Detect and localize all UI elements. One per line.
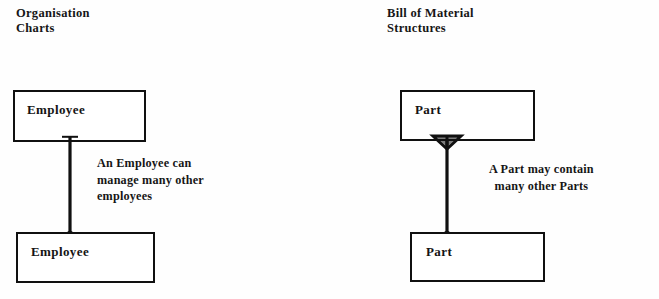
relationship-connector-left <box>46 136 94 240</box>
entity-label-part-bottom: Part <box>426 244 452 260</box>
entity-label-employee-top: Employee <box>27 102 85 118</box>
right-panel-caption: A Part may contain many other Parts <box>489 161 594 194</box>
relationship-connector-right <box>423 136 471 240</box>
left-panel-caption: An Employee can manage many other employ… <box>97 155 204 205</box>
diagram-page: Organisation Charts Employee An Employee… <box>0 0 659 299</box>
entity-label-employee-bottom: Employee <box>31 244 89 260</box>
right-panel-heading: Bill of Material Structures <box>387 6 474 36</box>
left-panel-heading: Organisation Charts <box>16 6 90 36</box>
crows-foot-icon-right-top <box>433 136 461 149</box>
entity-label-part-top: Part <box>415 102 441 118</box>
